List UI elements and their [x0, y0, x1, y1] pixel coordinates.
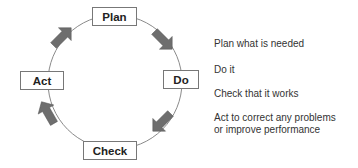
arrow-act-to-plan — [47, 21, 77, 51]
stage-act-label: Act — [33, 75, 52, 87]
stage-do-box: Do — [163, 70, 199, 89]
description-plan: Plan what is needed — [214, 38, 304, 50]
stage-plan-box: Plan — [92, 7, 137, 26]
stage-check-box: Check — [83, 141, 137, 160]
stage-act-box: Act — [20, 71, 64, 90]
description-act-line2: or improve performance — [214, 124, 336, 136]
stage-check-label: Check — [93, 145, 128, 157]
stage-do-label: Do — [173, 74, 188, 86]
arrow-do-to-check — [146, 107, 176, 137]
stage-plan-label: Plan — [102, 11, 126, 23]
description-do: Do it — [214, 64, 235, 76]
description-act: Act to correct any problems or improve p… — [214, 112, 336, 136]
arrow-check-to-act — [34, 97, 62, 128]
description-check: Check that it works — [214, 88, 298, 100]
description-act-line1: Act to correct any problems — [214, 112, 336, 124]
